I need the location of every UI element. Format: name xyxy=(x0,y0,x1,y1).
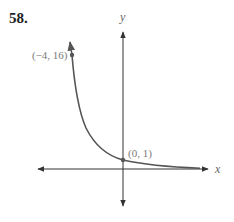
point-label-neg4-16: (−4, 16) xyxy=(32,49,68,62)
x-axis-label: x xyxy=(214,162,221,176)
graph: x y (−4, 16) (0, 1) xyxy=(0,0,234,222)
point-0-1 xyxy=(121,158,125,162)
point-neg4-16 xyxy=(70,53,74,57)
point-label-0-1: (0, 1) xyxy=(128,147,152,160)
y-axis-label: y xyxy=(119,10,126,24)
